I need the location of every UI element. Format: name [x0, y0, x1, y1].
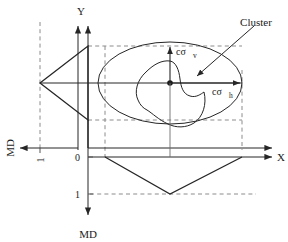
axis-ticks: [40, 148, 93, 194]
cluster-label: Cluster: [240, 16, 272, 28]
x-axis-label: X: [277, 151, 285, 163]
sigma-v-label: cσ v: [176, 46, 197, 60]
sigma-v-base: cσ: [176, 46, 186, 57]
bottom-triangle-path: [105, 157, 242, 194]
md-bottom-label: MD: [79, 228, 97, 240]
diagram-svg: Y X MD 1 MD 0 1 Cluster cσ v cσ h: [0, 0, 288, 242]
bottom-membership-triangle: [105, 157, 242, 194]
figure-canvas: Y X MD 1 MD 0 1 Cluster cσ v cσ h: [0, 0, 288, 242]
sigma-h-subscript: h: [229, 91, 233, 100]
sigma-v-subscript: v: [193, 51, 197, 60]
cluster-leader-line: [197, 26, 254, 76]
md-left-label: MD: [4, 139, 16, 157]
cluster-blob-outline: [136, 61, 205, 127]
left-membership-triangle: [40, 46, 88, 148]
y-axis-label: Y: [77, 5, 85, 17]
md-left-one-label: 1: [35, 158, 46, 163]
sigma-h-base: cσ: [212, 86, 222, 97]
one-bottom-label: 1: [75, 189, 80, 200]
zero-label: 0: [75, 152, 80, 163]
sigma-h-label: cσ h: [212, 86, 233, 100]
